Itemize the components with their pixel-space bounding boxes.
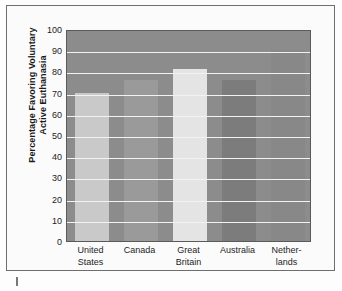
x-tick-label-line: Great	[164, 245, 213, 257]
x-axis-tick-labels: UnitedStatesCanadaGreatBritainAustraliaN…	[66, 245, 311, 271]
x-tick-label-united-states: UnitedStates	[66, 245, 115, 268]
bar-series	[67, 31, 310, 241]
y-tick-label-80: 80	[18, 67, 62, 77]
x-tick-label-australia: Australia	[213, 245, 262, 257]
x-tick-label-line: States	[66, 257, 115, 269]
y-tick-label-70: 70	[18, 89, 62, 99]
y-tick-label-10: 10	[18, 216, 62, 226]
bar-canada	[124, 80, 158, 241]
y-tick-label-40: 40	[18, 152, 62, 162]
x-tick-label-canada: Canada	[115, 245, 164, 257]
x-tick-label-line: Canada	[115, 245, 164, 257]
y-tick-label-60: 60	[18, 110, 62, 120]
x-tick-label-great-britain: GreatBritain	[164, 245, 213, 268]
bar-united-states	[75, 93, 109, 241]
register-tick-mark	[16, 277, 18, 286]
plot-area	[66, 30, 311, 242]
x-tick-label-line: Australia	[213, 245, 262, 257]
x-tick-label-line: lands	[262, 257, 311, 269]
y-tick-label-50: 50	[18, 131, 62, 141]
chart-figure: Percentage Favoring Voluntary Active Eut…	[0, 0, 342, 291]
y-axis-tick-labels: 0102030405060708090100	[14, 30, 62, 242]
bar-great-britain	[173, 69, 207, 241]
y-tick-label-90: 90	[18, 46, 62, 56]
y-tick-label-100: 100	[18, 25, 62, 35]
y-tick-label-0: 0	[18, 237, 62, 247]
bar-netherlands	[271, 50, 305, 241]
x-tick-label-line: Nether-	[262, 245, 311, 257]
x-tick-label-netherlands: Nether-lands	[262, 245, 311, 268]
y-tick-label-30: 30	[18, 173, 62, 183]
x-tick-label-line: United	[66, 245, 115, 257]
y-tick-label-20: 20	[18, 195, 62, 205]
x-tick-label-line: Britain	[164, 257, 213, 269]
bar-australia	[222, 80, 256, 241]
